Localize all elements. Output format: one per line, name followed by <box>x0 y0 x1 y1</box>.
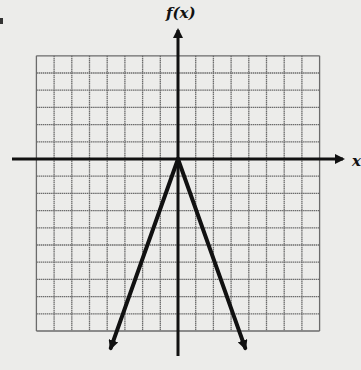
y-axis-label: f(x) <box>166 4 196 22</box>
x-axis-label: x <box>352 152 361 170</box>
graph-ray <box>111 159 178 348</box>
graph-ray <box>178 159 245 348</box>
corner-mark <box>0 18 3 24</box>
